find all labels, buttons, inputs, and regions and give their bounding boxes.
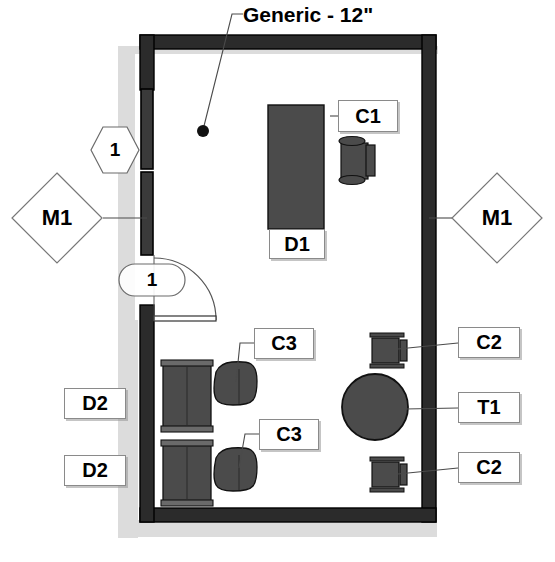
wall-tag-m1-right xyxy=(452,173,542,263)
furniture-t1-table xyxy=(342,374,408,440)
furniture-d2-dresser-lower xyxy=(161,440,213,506)
floor-plan-drawing: Generic - 12" 1 1 M1 M1 C1 D1 C3 C3 C2 T… xyxy=(0,0,555,562)
furniture-label-c2-upper[interactable]: C2 xyxy=(458,327,520,358)
furniture-label-c1[interactable]: C1 xyxy=(338,100,398,132)
furniture-c3-armchair-lower xyxy=(214,448,257,491)
furniture-label-c3-lower[interactable]: C3 xyxy=(259,419,319,450)
furniture-c2-chair-upper xyxy=(370,333,407,368)
furniture-c3-armchair-upper xyxy=(214,362,257,405)
generic-note-text: Generic - 12" xyxy=(243,3,373,27)
furniture-label-d2-upper[interactable]: D2 xyxy=(64,388,126,419)
furniture-d2-dresser-upper xyxy=(161,360,213,432)
door-marker-1 xyxy=(119,264,185,296)
wall-tag-m1-left xyxy=(12,173,102,263)
furniture-label-c2-lower[interactable]: C2 xyxy=(458,452,520,483)
left-wall-m1-segments xyxy=(141,89,153,255)
furniture-c2-chair-lower xyxy=(370,457,407,492)
furniture-d1-desk xyxy=(268,105,324,229)
furniture-c1-chair xyxy=(339,137,375,185)
furniture-label-d2-lower[interactable]: D2 xyxy=(64,455,126,486)
furniture-label-c3-upper[interactable]: C3 xyxy=(254,328,314,359)
furniture-label-d1[interactable]: D1 xyxy=(269,229,325,259)
furniture-label-t1[interactable]: T1 xyxy=(458,392,520,423)
